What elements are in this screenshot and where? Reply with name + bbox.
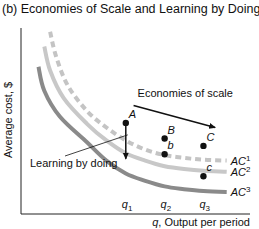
learning-by-doing-label: Learning by doing — [30, 157, 117, 169]
point-label-b: b — [168, 139, 174, 151]
curve-ac3 — [39, 67, 227, 192]
point-label-B: B — [168, 124, 175, 136]
x-tick-label-q1: q1 — [122, 198, 133, 213]
curve-label-ac3: AC3 — [230, 185, 251, 198]
point-label-A: A — [128, 108, 136, 120]
point-label-C: C — [206, 131, 214, 143]
point-A — [123, 120, 129, 126]
economies-of-scale-label: Economies of scale — [138, 87, 233, 99]
x-tick-label-q3: q3 — [199, 198, 210, 213]
point-c — [200, 173, 206, 179]
point-C — [200, 143, 206, 149]
point-b — [161, 151, 167, 157]
x-tick-label-q2: q2 — [161, 198, 172, 213]
y-axis-label: Average cost, $ — [2, 82, 14, 158]
chart: Average cost, $ q, Output per period AC1… — [0, 0, 259, 229]
x-axis-text: , Output per period — [158, 216, 250, 228]
point-label-c: c — [206, 161, 212, 173]
x-axis-label: q, Output per period — [152, 216, 250, 228]
curve-label-ac2: AC2 — [230, 165, 251, 178]
